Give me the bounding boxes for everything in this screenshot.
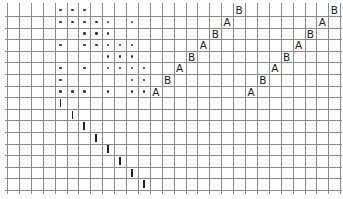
grid-vertical-line xyxy=(316,3,317,194)
bar-mark xyxy=(67,109,79,121)
dot-mark xyxy=(78,39,90,51)
grid-horizontal-line xyxy=(5,155,342,156)
letter-mark-a: A xyxy=(221,16,233,28)
dot-icon xyxy=(143,67,146,70)
dot-icon xyxy=(59,44,62,47)
dot-mark xyxy=(78,62,90,74)
dot-mark xyxy=(102,27,114,39)
grid-vertical-line xyxy=(186,3,187,194)
dot-icon xyxy=(95,32,98,35)
letter-mark-a: A xyxy=(150,85,162,97)
dot-icon xyxy=(83,9,86,12)
bar-mark xyxy=(78,120,90,132)
letter-label: A xyxy=(200,40,207,51)
letter-label: B xyxy=(283,52,290,63)
vertical-bar-icon xyxy=(95,134,97,142)
dot-mark xyxy=(126,51,138,63)
letter-label: B xyxy=(188,52,195,63)
letter-mark-b: B xyxy=(209,27,221,39)
letter-mark-a: A xyxy=(316,16,328,28)
vertical-bar-icon xyxy=(60,99,62,107)
bar-mark xyxy=(102,143,114,155)
dot-icon xyxy=(131,21,134,24)
vertical-bar-icon xyxy=(83,122,85,130)
vertical-bar-icon xyxy=(107,145,109,153)
letter-label: A xyxy=(224,17,231,28)
grid-diagram: ABABABABABABABAB xyxy=(0,0,343,199)
grid-vertical-line xyxy=(174,3,175,194)
dot-icon xyxy=(143,79,146,82)
dot-icon xyxy=(131,55,134,58)
letter-mark-b: B xyxy=(304,27,316,39)
letter-mark-a: A xyxy=(293,39,305,51)
letter-mark-b: B xyxy=(257,74,269,86)
grid-vertical-line xyxy=(281,3,282,194)
dot-mark xyxy=(102,62,114,74)
dot-icon xyxy=(107,21,110,24)
grid-vertical-line xyxy=(43,3,44,194)
dot-icon xyxy=(143,90,146,93)
dot-icon xyxy=(107,90,110,93)
grid-vertical-line xyxy=(269,3,270,194)
letter-label: A xyxy=(247,87,254,98)
grid-vertical-line xyxy=(340,3,341,194)
dot-mark xyxy=(67,16,79,28)
letter-label: B xyxy=(235,5,242,16)
dot-icon xyxy=(71,21,74,24)
dot-icon xyxy=(59,9,62,12)
dot-icon xyxy=(119,55,122,58)
vertical-bar-icon xyxy=(131,169,133,177)
letter-mark-b: B xyxy=(233,4,245,16)
dot-mark xyxy=(55,85,67,97)
dot-mark xyxy=(67,4,79,16)
grid-vertical-line xyxy=(150,3,151,194)
grid-vertical-line xyxy=(138,3,139,194)
vertical-bar-icon xyxy=(119,157,121,165)
grid-vertical-line xyxy=(221,3,222,194)
dot-mark xyxy=(126,16,138,28)
dot-icon xyxy=(83,21,86,24)
letter-label: B xyxy=(331,5,338,16)
dot-mark xyxy=(90,16,102,28)
dot-mark xyxy=(126,62,138,74)
dot-icon xyxy=(83,44,86,47)
grid-vertical-line xyxy=(67,3,68,194)
dot-icon xyxy=(59,67,62,70)
dot-mark xyxy=(102,85,114,97)
bar-mark xyxy=(114,155,126,167)
bar-mark xyxy=(126,167,138,179)
grid-horizontal-line xyxy=(5,178,342,179)
letter-mark-b: B xyxy=(186,51,198,63)
dot-icon xyxy=(95,21,98,24)
dot-icon xyxy=(107,32,110,35)
grid-horizontal-line xyxy=(5,190,342,191)
letter-label: A xyxy=(319,17,326,28)
vertical-bar-icon xyxy=(143,180,145,188)
grid-vertical-line xyxy=(31,3,32,194)
dot-icon xyxy=(107,67,110,70)
letter-label: B xyxy=(259,75,266,86)
dot-icon xyxy=(59,79,62,82)
grid-vertical-line xyxy=(293,3,294,194)
dot-mark xyxy=(55,16,67,28)
letter-label: B xyxy=(164,75,171,86)
letter-mark-a: A xyxy=(269,62,281,74)
dot-mark xyxy=(55,4,67,16)
dot-icon xyxy=(119,67,122,70)
letter-mark-b: B xyxy=(328,4,340,16)
letter-mark-a: A xyxy=(197,39,209,51)
grid-horizontal-line xyxy=(5,144,342,145)
dot-icon xyxy=(59,90,62,93)
dot-mark xyxy=(102,16,114,28)
letter-mark-b: B xyxy=(162,74,174,86)
bar-mark xyxy=(90,132,102,144)
letter-label: B xyxy=(307,29,314,40)
grid-vertical-line xyxy=(19,3,20,194)
bar-mark xyxy=(55,97,67,109)
letter-label: A xyxy=(176,63,183,74)
vertical-bar-icon xyxy=(72,111,74,119)
dot-mark xyxy=(126,39,138,51)
dot-icon xyxy=(131,44,134,47)
dot-icon xyxy=(131,79,134,82)
dot-mark xyxy=(67,85,79,97)
